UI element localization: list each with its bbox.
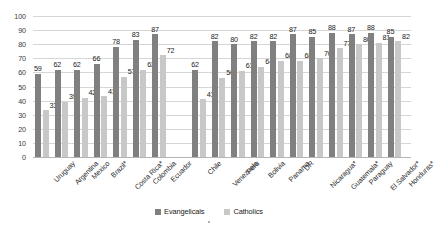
- bar-value-label: 88: [367, 24, 375, 31]
- bar-group: 8772: [151, 16, 171, 157]
- bar-group: 8264: [250, 16, 270, 157]
- bar-group: 8881: [367, 16, 387, 157]
- bar-value-label: 82: [402, 33, 410, 40]
- bar-value-label: 62: [73, 61, 81, 68]
- bar-value-label: 62: [191, 61, 199, 68]
- y-axis-tick-label: 80: [18, 40, 26, 49]
- bar-catholics: 81: [376, 43, 382, 157]
- bar-value-label: 66: [93, 55, 101, 62]
- plot-area: 5933623962426643785783628772624182568061…: [33, 16, 411, 157]
- bar-value-label: 82: [211, 33, 219, 40]
- bar-group: 8768: [289, 16, 309, 157]
- legend-item-evangelicals[interactable]: Evangelicals: [155, 207, 204, 216]
- bar-catholics: 42: [82, 98, 88, 157]
- bar-group: 6242: [73, 16, 93, 157]
- bar-group: 5933: [34, 16, 54, 157]
- bar-group: 8268: [269, 16, 289, 157]
- y-axis-tick-label: 40: [18, 96, 26, 105]
- bar-evangelicals: 88: [329, 33, 335, 157]
- bar-catholics: 62: [140, 70, 146, 157]
- bar-catholics: 57: [121, 77, 127, 157]
- bar-evangelicals: 59: [35, 74, 41, 157]
- bar-value-label: 59: [34, 65, 42, 72]
- bar-catholics: 41: [200, 99, 206, 157]
- bar-value-label: 62: [54, 61, 62, 68]
- bar-group: 8570: [308, 16, 328, 157]
- bar-catholics: 72: [160, 55, 166, 157]
- bar-catholics: 68: [278, 61, 284, 157]
- bar-group: 6643: [93, 16, 113, 157]
- bar-group: 8362: [132, 16, 152, 157]
- bar-evangelicals: 62: [192, 70, 198, 157]
- bar-group: 8256: [211, 16, 231, 157]
- x-axis-labels: UruguayArgentinaMexicoBrazil*Costa Rica*…: [33, 159, 411, 205]
- y-axis-tick-label: 0: [22, 153, 26, 162]
- bar-evangelicals: 80: [231, 44, 237, 157]
- bar-group: 7857: [112, 16, 132, 157]
- x-axis-tick-label: Brazil*: [108, 159, 129, 180]
- bar-evangelicals: 85: [309, 37, 315, 157]
- bar-value-label: 85: [308, 28, 316, 35]
- bar-catholics: 56: [219, 78, 225, 157]
- bar-value-label: 83: [132, 31, 140, 38]
- y-axis-tick-label: 100: [14, 12, 26, 21]
- bar-value-label: 85: [387, 28, 395, 35]
- legend-item-catholics[interactable]: Catholics: [224, 207, 263, 216]
- bar-group: 8061: [230, 16, 250, 157]
- y-axis-tick-label: 60: [18, 68, 26, 77]
- y-axis-tick-label: 90: [18, 26, 26, 35]
- bar-catholics: 77: [337, 48, 343, 157]
- bar-evangelicals: 82: [212, 41, 218, 157]
- y-axis-tick-label: 20: [18, 124, 26, 133]
- legend-label: Evangelicals: [164, 207, 204, 216]
- bar-value-label: 87: [289, 26, 297, 33]
- bar-group: 6239: [54, 16, 74, 157]
- legend-swatch-icon: [155, 209, 161, 215]
- bar-group: 6241: [191, 16, 211, 157]
- bars-layer: 5933623962426643785783628772624182568061…: [33, 16, 411, 157]
- bar-value-label: 78: [112, 38, 120, 45]
- y-axis-tick-label: 10: [18, 138, 26, 147]
- bar-value-label: 72: [167, 47, 175, 54]
- y-axis-tick-label: 70: [18, 54, 26, 63]
- bar-catholics: 82: [395, 41, 401, 157]
- bar-evangelicals: 85: [388, 37, 394, 157]
- bar-value-label: 87: [151, 26, 159, 33]
- legend-dot-marker: [208, 221, 210, 223]
- bar-evangelicals: 82: [251, 41, 257, 157]
- bar-group: 8780: [348, 16, 368, 157]
- bar-group: 8582: [387, 16, 407, 157]
- y-axis-tick-label: 30: [18, 110, 26, 119]
- bar-value-label: 82: [250, 33, 258, 40]
- bar-catholics: 33: [43, 110, 49, 157]
- gridline: [33, 157, 411, 158]
- x-axis-tick-label: Bolivia: [266, 159, 287, 180]
- x-axis-tick-label: Chile: [206, 159, 224, 177]
- y-axis-labels: 1009080706050403020100: [0, 16, 30, 157]
- chart-legend: EvangelicalsCatholics: [0, 207, 418, 216]
- bar-catholics: 64: [258, 67, 264, 157]
- bar-catholics: 80: [356, 44, 362, 157]
- bar-catholics: 39: [62, 102, 68, 157]
- bar-evangelicals: 88: [368, 33, 374, 157]
- bar-catholics: 61: [239, 71, 245, 157]
- bar-evangelicals: 82: [270, 41, 276, 157]
- bar-group: 8877: [328, 16, 348, 157]
- bar-evangelicals: 66: [94, 64, 100, 157]
- bar-value-label: 87: [348, 26, 356, 33]
- bar-evangelicals: 78: [113, 47, 119, 157]
- y-axis-tick-label: 50: [18, 82, 26, 91]
- bar-evangelicals: 83: [133, 40, 139, 157]
- bar-catholics: 43: [101, 96, 107, 157]
- bar-evangelicals: 87: [290, 34, 296, 157]
- legend-swatch-icon: [224, 209, 230, 215]
- bar-catholics: 68: [297, 61, 303, 157]
- bar-evangelicals: 87: [349, 34, 355, 157]
- bar-evangelicals: 62: [55, 70, 61, 157]
- bar-evangelicals: 87: [152, 34, 158, 157]
- bar-catholics: 70: [317, 58, 323, 157]
- bar-value-label: 80: [230, 36, 238, 43]
- legend-label: Catholics: [233, 207, 263, 216]
- bar-evangelicals: 62: [74, 70, 80, 157]
